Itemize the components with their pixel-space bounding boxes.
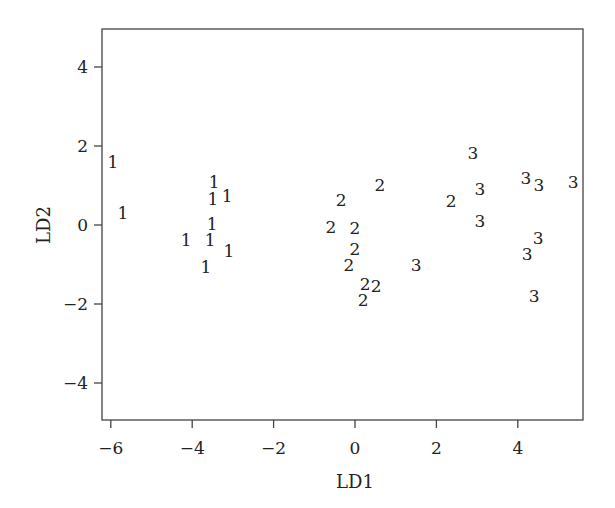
group-3-point: 3 [533, 228, 544, 248]
x-axis-title: LD1 [336, 471, 374, 492]
x-tick-label: −4 [180, 438, 205, 458]
group-1-point: 1 [222, 186, 233, 206]
group-2-point: 2 [358, 290, 369, 310]
data-points: 111111111122222222223333333333 [107, 143, 578, 310]
group-3-point: 3 [534, 175, 545, 195]
group-3-point: 3 [521, 168, 532, 188]
group-1-point: 1 [201, 257, 212, 277]
x-tick-label: 2 [431, 438, 442, 458]
group-1-point: 1 [205, 230, 216, 250]
lda-scatter-plot: −4−2024 −6−4−2024 1111111111222222222233… [0, 0, 615, 508]
group-3-point: 3 [468, 143, 479, 163]
y-tick-label: 2 [77, 136, 88, 156]
group-3-point: 3 [475, 211, 486, 231]
group-2-point: 2 [374, 175, 385, 195]
x-tick-label: −2 [261, 438, 286, 458]
x-axis: −6−4−2024 [98, 420, 523, 458]
plot-frame [102, 29, 583, 420]
group-3-point: 3 [522, 244, 533, 264]
group-3-point: 3 [568, 172, 579, 192]
y-tick-label: −2 [63, 294, 88, 314]
x-tick-label: 0 [350, 438, 361, 458]
y-axis: −4−2024 [63, 57, 102, 393]
y-tick-label: 4 [77, 57, 88, 77]
group-2-point: 2 [350, 218, 361, 238]
group-3-point: 3 [475, 179, 486, 199]
group-2-point: 2 [326, 217, 337, 237]
group-1-point: 1 [107, 152, 118, 172]
group-2-point: 2 [446, 191, 457, 211]
x-tick-label: −6 [98, 438, 123, 458]
group-1-point: 1 [181, 230, 192, 250]
group-2-point: 2 [343, 255, 354, 275]
group-1-point: 1 [223, 241, 234, 261]
group-1-point: 1 [118, 203, 129, 223]
group-1-point: 1 [208, 189, 219, 209]
y-tick-label: 0 [77, 215, 88, 235]
y-axis-title: LD2 [33, 206, 54, 244]
group-3-point: 3 [529, 286, 540, 306]
y-tick-label: −4 [63, 373, 88, 393]
group-2-point: 2 [371, 276, 382, 296]
group-3-point: 3 [411, 255, 422, 275]
x-tick-label: 4 [512, 438, 523, 458]
group-2-point: 2 [336, 190, 347, 210]
